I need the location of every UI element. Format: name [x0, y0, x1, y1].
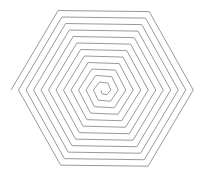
hexagon-spiral-canvas — [0, 0, 208, 182]
hexagonal-spiral-line — [11, 11, 193, 167]
